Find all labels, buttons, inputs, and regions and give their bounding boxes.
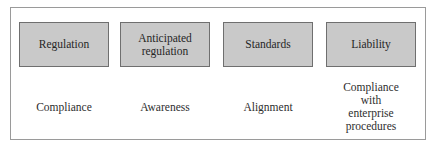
response-label-enterprise-compliance: Compliance with enterprise procedures bbox=[321, 80, 421, 134]
response-label-alignment: Alignment bbox=[218, 80, 318, 134]
response-label-awareness: Awareness bbox=[115, 80, 215, 134]
response-label-compliance: Compliance bbox=[14, 80, 114, 134]
header-box-regulation: Regulation bbox=[19, 22, 109, 67]
header-box-standards: Standards bbox=[223, 22, 313, 67]
header-box-liability: Liability bbox=[326, 22, 416, 67]
header-box-anticipated-regulation: Anticipated regulation bbox=[120, 22, 210, 67]
